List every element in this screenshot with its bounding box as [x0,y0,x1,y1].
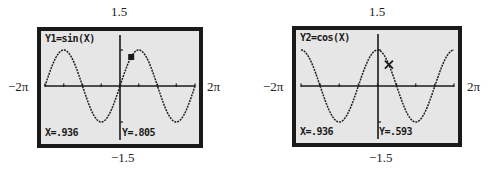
ymax-label: 1.5 [369,4,385,20]
trace-cursor [128,54,134,60]
xmin-label: −2π [263,79,283,95]
ymin-label: −1.5 [369,150,393,166]
x-readout: X=.936 [300,126,333,137]
x-readout: X=.936 [45,127,78,138]
equation-label: Y2=cos(X) [300,32,350,43]
xmin-label: −2π [8,79,28,95]
calculator-screen: Y1=sin(X) X=.936 Y=.805 [37,27,203,148]
y-readout: Y=.805 [122,127,155,138]
xmax-label: 2π [467,79,480,95]
equation-label: Y1=sin(X) [45,33,95,44]
ymax-label: 1.5 [111,4,127,20]
xmax-label: 2π [207,79,220,95]
calculator-screen: Y2=cos(X) X=.936 Y=.593 [292,26,462,147]
ymin-label: −1.5 [111,150,135,166]
y-readout: Y=.593 [379,126,412,137]
trace-cursor [385,61,393,69]
